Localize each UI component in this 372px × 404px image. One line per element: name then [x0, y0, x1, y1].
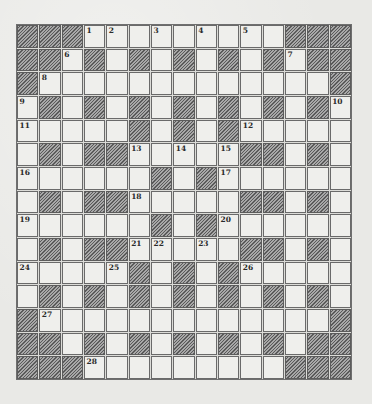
answer-cell[interactable]: [285, 96, 306, 119]
answer-cell[interactable]: [129, 309, 150, 332]
answer-cell[interactable]: [106, 214, 127, 237]
answer-cell[interactable]: [330, 238, 351, 261]
answer-cell[interactable]: [173, 214, 194, 237]
answer-cell[interactable]: [285, 333, 306, 356]
answer-cell[interactable]: 19: [17, 214, 38, 237]
answer-cell[interactable]: 28: [84, 356, 105, 379]
answer-cell[interactable]: [330, 167, 351, 190]
answer-cell[interactable]: [62, 143, 83, 166]
answer-cell[interactable]: [106, 96, 127, 119]
answer-cell[interactable]: [173, 25, 194, 48]
answer-cell[interactable]: [285, 238, 306, 261]
answer-cell[interactable]: [330, 262, 351, 285]
answer-cell[interactable]: [84, 262, 105, 285]
answer-cell[interactable]: [196, 333, 217, 356]
answer-cell[interactable]: [330, 143, 351, 166]
answer-cell[interactable]: [84, 72, 105, 95]
answer-cell[interactable]: [106, 167, 127, 190]
answer-cell[interactable]: [84, 214, 105, 237]
answer-cell[interactable]: [196, 120, 217, 143]
answer-cell[interactable]: [129, 72, 150, 95]
answer-cell[interactable]: [173, 356, 194, 379]
answer-cell[interactable]: [39, 167, 60, 190]
answer-cell[interactable]: 9: [17, 96, 38, 119]
answer-cell[interactable]: [240, 309, 261, 332]
answer-cell[interactable]: [196, 262, 217, 285]
answer-cell[interactable]: [151, 49, 172, 72]
answer-cell[interactable]: [84, 120, 105, 143]
answer-cell[interactable]: [173, 191, 194, 214]
answer-cell[interactable]: [263, 120, 284, 143]
answer-cell[interactable]: [84, 167, 105, 190]
answer-cell[interactable]: [62, 167, 83, 190]
answer-cell[interactable]: [39, 214, 60, 237]
answer-cell[interactable]: [330, 285, 351, 308]
answer-cell[interactable]: 2: [106, 25, 127, 48]
answer-cell[interactable]: [285, 309, 306, 332]
answer-cell[interactable]: 1: [84, 25, 105, 48]
answer-cell[interactable]: [218, 356, 239, 379]
answer-cell[interactable]: [62, 285, 83, 308]
answer-cell[interactable]: [307, 72, 328, 95]
answer-cell[interactable]: [151, 356, 172, 379]
answer-cell[interactable]: [196, 356, 217, 379]
answer-cell[interactable]: 10: [330, 96, 351, 119]
answer-cell[interactable]: [196, 49, 217, 72]
answer-cell[interactable]: [151, 72, 172, 95]
answer-cell[interactable]: [62, 191, 83, 214]
answer-cell[interactable]: [151, 96, 172, 119]
answer-cell[interactable]: [17, 285, 38, 308]
answer-cell[interactable]: 27: [39, 309, 60, 332]
answer-cell[interactable]: [129, 214, 150, 237]
answer-cell[interactable]: 21: [129, 238, 150, 261]
answer-cell[interactable]: [62, 120, 83, 143]
answer-cell[interactable]: [151, 333, 172, 356]
answer-cell[interactable]: [151, 143, 172, 166]
answer-cell[interactable]: [240, 214, 261, 237]
answer-cell[interactable]: [173, 238, 194, 261]
answer-cell[interactable]: [285, 120, 306, 143]
answer-cell[interactable]: [285, 191, 306, 214]
answer-cell[interactable]: [307, 214, 328, 237]
answer-cell[interactable]: [62, 238, 83, 261]
answer-cell[interactable]: 8: [39, 72, 60, 95]
answer-cell[interactable]: [285, 214, 306, 237]
answer-cell[interactable]: 3: [151, 25, 172, 48]
answer-cell[interactable]: 24: [17, 262, 38, 285]
answer-cell[interactable]: [151, 285, 172, 308]
answer-cell[interactable]: 18: [129, 191, 150, 214]
answer-cell[interactable]: [84, 309, 105, 332]
answer-cell[interactable]: 23: [196, 238, 217, 261]
answer-cell[interactable]: [151, 262, 172, 285]
answer-cell[interactable]: [173, 167, 194, 190]
answer-cell[interactable]: [196, 191, 217, 214]
answer-cell[interactable]: 14: [173, 143, 194, 166]
answer-cell[interactable]: [285, 143, 306, 166]
answer-cell[interactable]: [263, 262, 284, 285]
answer-cell[interactable]: [62, 309, 83, 332]
answer-cell[interactable]: [17, 238, 38, 261]
answer-cell[interactable]: 11: [17, 120, 38, 143]
answer-cell[interactable]: [196, 309, 217, 332]
answer-cell[interactable]: [106, 356, 127, 379]
answer-cell[interactable]: [240, 333, 261, 356]
answer-cell[interactable]: [263, 214, 284, 237]
answer-cell[interactable]: [263, 167, 284, 190]
answer-cell[interactable]: [151, 309, 172, 332]
answer-cell[interactable]: [62, 262, 83, 285]
answer-cell[interactable]: [196, 143, 217, 166]
answer-cell[interactable]: [218, 191, 239, 214]
answer-cell[interactable]: [151, 191, 172, 214]
answer-cell[interactable]: [106, 72, 127, 95]
answer-cell[interactable]: [62, 214, 83, 237]
answer-cell[interactable]: [62, 96, 83, 119]
answer-cell[interactable]: 15: [218, 143, 239, 166]
answer-cell[interactable]: [285, 262, 306, 285]
answer-cell[interactable]: 7: [285, 49, 306, 72]
answer-cell[interactable]: [307, 262, 328, 285]
answer-cell[interactable]: 5: [240, 25, 261, 48]
answer-cell[interactable]: [62, 333, 83, 356]
answer-cell[interactable]: [263, 356, 284, 379]
answer-cell[interactable]: [307, 309, 328, 332]
answer-cell[interactable]: [106, 285, 127, 308]
